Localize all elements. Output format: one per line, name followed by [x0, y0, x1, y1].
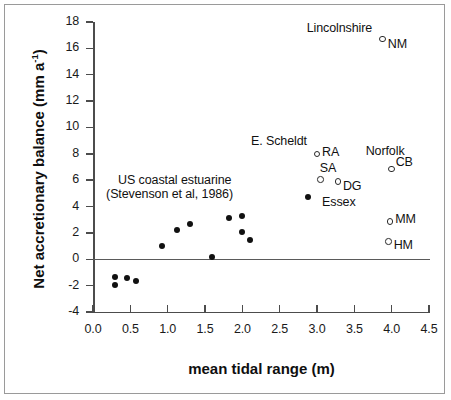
data-point: [247, 237, 253, 243]
x-tick-label: 2.5: [260, 322, 300, 336]
x-tick-mark: [204, 305, 206, 312]
data-point-dg: [335, 178, 342, 185]
x-tick-label: 0.5: [110, 322, 150, 336]
data-point-sa: [317, 176, 324, 183]
x-tick-label: 1.0: [148, 322, 188, 336]
data-point: [239, 213, 245, 219]
x-tick-mark: [92, 305, 94, 312]
annotation-essex: Essex: [322, 195, 356, 209]
zero-reference-line: [93, 259, 430, 260]
x-axis-title: mean tidal range (m): [93, 360, 430, 377]
y-axis-title: Net accretionary balance (mm a-1): [29, 19, 47, 319]
x-tick-mark: [242, 305, 244, 312]
data-point-cb: [388, 166, 395, 173]
data-point: [124, 275, 130, 281]
y-axis-title-tail: ): [30, 49, 47, 54]
point-label-cb: CB: [396, 155, 413, 169]
point-label-ra: RA: [322, 145, 339, 159]
x-tick-label: 4.5: [409, 322, 449, 336]
data-point: [174, 227, 180, 233]
x-tick-label: 0.0: [73, 322, 113, 336]
y-tick-mark: [86, 127, 93, 129]
data-point-essex: [305, 194, 311, 200]
y-tick-mark: [86, 74, 93, 76]
x-axis-line: [93, 312, 430, 314]
x-tick-label: 2.0: [222, 322, 262, 336]
x-tick-mark: [428, 305, 430, 312]
x-tick-label: 3.5: [334, 322, 374, 336]
data-point: [187, 221, 193, 227]
annotation-lincolnshire: Lincolnshire: [307, 21, 373, 35]
data-point: [159, 243, 165, 249]
data-point-nm: [379, 36, 386, 43]
point-label-dg: DG: [343, 179, 362, 193]
y-axis-line: [93, 22, 95, 313]
data-point-hm: [385, 238, 392, 245]
data-point-mm: [387, 218, 394, 225]
x-tick-mark: [316, 305, 318, 312]
x-tick-mark: [130, 305, 132, 312]
x-tick-mark: [279, 305, 281, 312]
y-tick-mark: [86, 48, 93, 50]
point-label-nm: NM: [388, 37, 407, 51]
annotation-e-scheldt: E. Scheldt: [251, 134, 307, 148]
annotation-us-coastal-line1: US coastal estuarine: [118, 173, 231, 187]
y-tick-mark: [86, 232, 93, 234]
data-point: [133, 278, 139, 284]
data-point-ra: [314, 151, 321, 158]
point-label-hm: HM: [394, 238, 413, 252]
point-label-mm: MM: [395, 212, 416, 226]
y-axis-title-superscript: -1: [29, 54, 40, 62]
annotation-us-coastal-line2: (Stevenson et al, 1986): [106, 187, 233, 201]
x-tick-mark: [391, 305, 393, 312]
y-tick-mark: [86, 179, 93, 181]
y-tick-mark: [86, 153, 93, 155]
y-tick-mark: [86, 259, 93, 261]
x-tick-label: 3.0: [297, 322, 337, 336]
data-point: [112, 282, 118, 288]
data-point: [239, 229, 245, 235]
data-point: [226, 215, 232, 221]
data-point: [112, 274, 118, 280]
y-tick-mark: [86, 206, 93, 208]
y-tick-mark: [86, 100, 93, 102]
x-tick-label: 1.5: [185, 322, 225, 336]
y-axis-title-base: Net accretionary balance (mm a: [30, 63, 47, 289]
x-tick-mark: [354, 305, 356, 312]
y-tick-mark: [86, 285, 93, 287]
x-tick-mark: [167, 305, 169, 312]
y-tick-mark: [86, 21, 93, 23]
x-tick-label: 4.0: [372, 322, 412, 336]
point-label-sa: SA: [320, 161, 336, 175]
scatter-chart-figure: 181614121086420-2-4 0.00.51.01.52.02.53.…: [0, 0, 451, 400]
